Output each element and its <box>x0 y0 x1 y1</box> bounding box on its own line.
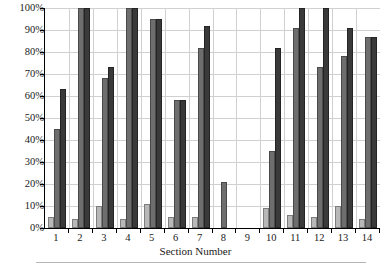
x-tick-label: 2 <box>77 232 82 243</box>
x-tick-label: 10 <box>266 232 277 243</box>
bar-group <box>356 8 380 228</box>
bar <box>60 89 66 228</box>
y-tick-mark <box>40 162 44 163</box>
bar <box>221 182 227 228</box>
bar <box>371 37 377 228</box>
bar <box>156 19 162 228</box>
x-tick-mark <box>283 229 284 233</box>
y-tick-label: 20% <box>2 179 44 189</box>
y-tick-mark <box>40 52 44 53</box>
y-tick-label: 0% <box>2 223 44 233</box>
y-tick-label: 100% <box>2 3 44 13</box>
x-tick-mark <box>68 229 69 233</box>
y-tick-label: 30% <box>2 157 44 167</box>
x-tick-label: 9 <box>245 232 250 243</box>
y-tick-label: 80% <box>2 47 44 57</box>
y-tick-mark <box>40 118 44 119</box>
x-tick-mark <box>164 229 165 233</box>
bar-group <box>141 8 165 228</box>
x-tick-mark <box>379 229 380 233</box>
x-tick-label: 4 <box>125 232 130 243</box>
y-tick-mark <box>40 228 44 229</box>
y-tick-mark <box>40 140 44 141</box>
x-tick-label: 7 <box>197 232 202 243</box>
footer-divider <box>36 262 366 263</box>
bar <box>323 8 329 228</box>
plot-area <box>44 8 380 229</box>
y-tick-mark <box>40 8 44 9</box>
x-tick-label: 13 <box>338 232 349 243</box>
bar <box>132 8 138 228</box>
bar <box>275 48 281 228</box>
y-tick-mark <box>40 30 44 31</box>
bar-chart-figure: 0%10%20%30%40%50%60%70%80%90%100% 123456… <box>0 0 391 265</box>
y-tick-label: 90% <box>2 25 44 35</box>
bar <box>180 100 186 228</box>
bar-group <box>45 8 69 228</box>
bar-group <box>332 8 356 228</box>
x-tick-label: 14 <box>362 232 373 243</box>
bar <box>347 28 353 228</box>
x-tick-mark <box>188 229 189 233</box>
bar-group <box>308 8 332 228</box>
x-tick-mark <box>259 229 260 233</box>
y-tick-mark <box>40 184 44 185</box>
x-tick-label: 1 <box>53 232 58 243</box>
x-tick-label: 5 <box>149 232 154 243</box>
x-tick-mark <box>331 229 332 233</box>
y-tick-mark <box>40 96 44 97</box>
y-tick-mark <box>40 74 44 75</box>
x-tick-label: 11 <box>290 232 300 243</box>
y-tick-mark <box>40 206 44 207</box>
bar-group <box>260 8 284 228</box>
bar-group <box>69 8 93 228</box>
bar <box>299 8 305 228</box>
x-axis-title: Section Number <box>0 245 391 257</box>
x-tick-label: 6 <box>173 232 178 243</box>
x-tick-label: 3 <box>101 232 106 243</box>
bar-group <box>189 8 213 228</box>
bar <box>108 67 114 228</box>
x-tick-mark <box>140 229 141 233</box>
bar-group <box>236 8 260 228</box>
y-tick-label: 40% <box>2 135 44 145</box>
x-tick-label: 8 <box>221 232 226 243</box>
x-tick-label: 12 <box>314 232 325 243</box>
y-gridline <box>45 228 380 229</box>
x-tick-mark <box>307 229 308 233</box>
x-tick-mark <box>235 229 236 233</box>
bar-group <box>284 8 308 228</box>
x-tick-mark <box>92 229 93 233</box>
x-tick-mark <box>355 229 356 233</box>
bar-group <box>93 8 117 228</box>
y-tick-label: 10% <box>2 201 44 211</box>
y-tick-label: 50% <box>2 113 44 123</box>
bar-group <box>165 8 189 228</box>
x-tick-mark <box>212 229 213 233</box>
bar <box>204 26 210 228</box>
bar-group <box>117 8 141 228</box>
y-tick-label: 60% <box>2 91 44 101</box>
x-tick-mark <box>116 229 117 233</box>
bar <box>84 8 90 228</box>
y-tick-label: 70% <box>2 69 44 79</box>
bar-group <box>213 8 237 228</box>
